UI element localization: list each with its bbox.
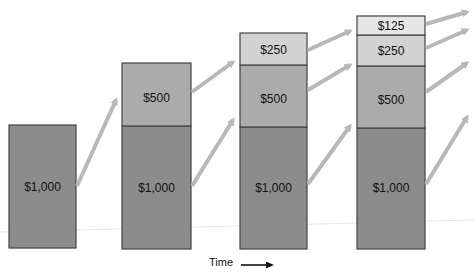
stacked-growth-diagram: $1,000 $1,000 $500 $1,000 $500 $250 $1,0… bbox=[0, 0, 474, 273]
arrow-icon bbox=[308, 31, 350, 50]
segment-label: $1,000 bbox=[24, 180, 61, 194]
arrow-icon bbox=[426, 63, 467, 92]
bar-4: $1,000 $500 $250 $125 bbox=[357, 16, 425, 249]
arrow-icon bbox=[77, 100, 116, 186]
segment-label: $250 bbox=[378, 44, 405, 58]
segment-label: $500 bbox=[260, 92, 287, 106]
bar-1: $1,000 bbox=[9, 125, 76, 248]
arrow-icon bbox=[192, 62, 233, 92]
x-axis-label: Time bbox=[209, 256, 233, 268]
arrow-icon bbox=[308, 65, 350, 90]
segment-label: $1,000 bbox=[373, 181, 410, 195]
arrow-icon bbox=[426, 12, 467, 24]
segment-label: $1,000 bbox=[138, 181, 175, 195]
segment-label: $1,000 bbox=[255, 181, 292, 195]
bar-3: $1,000 $500 $250 bbox=[240, 33, 307, 249]
arrow-icon bbox=[308, 126, 350, 184]
segment-label: $500 bbox=[378, 93, 405, 107]
arrow-icon bbox=[426, 30, 467, 48]
arrow-icon bbox=[192, 120, 233, 186]
bar-2: $1,000 $500 bbox=[122, 63, 191, 249]
segment-label: $250 bbox=[260, 43, 287, 57]
segment-label: $500 bbox=[143, 91, 170, 105]
arrow-icon bbox=[426, 117, 467, 184]
segment-label: $125 bbox=[378, 19, 405, 33]
